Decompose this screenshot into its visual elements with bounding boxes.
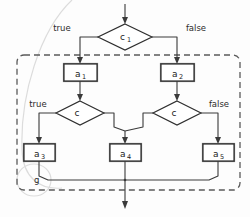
edge-a5-to-merge <box>125 161 218 180</box>
flowchart-diagram: c 1 true false a 1 a 2 c c <box>0 0 250 217</box>
action-a2-subscript: 2 <box>179 73 183 81</box>
group-label-g: g <box>34 175 39 185</box>
decision-c1 <box>98 24 152 50</box>
exit-arrow-head <box>122 201 128 209</box>
edge-label-mid-false: false <box>209 99 229 109</box>
flowchart-canvas: c 1 true false a 1 a 2 c c <box>0 0 250 217</box>
action-a5-subscript: 5 <box>220 153 224 161</box>
action-a3-label: a <box>34 149 40 159</box>
edge-a2-to-cright-arrow <box>174 94 180 101</box>
decision-c-left <box>56 101 104 125</box>
decision-c1-label: c <box>120 32 125 42</box>
action-a1-label: a <box>75 69 81 79</box>
edge-cleft-true <box>39 113 56 139</box>
edge-c1-false <box>152 37 177 59</box>
edge-a3-to-merge <box>39 161 125 180</box>
decision-c-right <box>153 101 201 125</box>
action-a1-subscript: 1 <box>82 73 86 81</box>
edge-c1-true <box>80 37 98 59</box>
entry-arrow-head <box>122 17 128 24</box>
action-a2-label: a <box>172 69 178 79</box>
decision-c-left-label: c <box>75 108 80 118</box>
edge-cleft-false <box>104 113 125 131</box>
edge-a1-to-cleft-arrow <box>77 94 83 101</box>
edge-cright-true <box>125 113 153 131</box>
edge-cright-false <box>201 113 218 139</box>
action-a4-label: a <box>120 149 126 159</box>
edge-label-mid-true: true <box>29 99 46 109</box>
decision-c1-subscript: 1 <box>127 36 131 44</box>
action-a4-subscript: 4 <box>127 153 131 161</box>
edge-label-top-false: false <box>186 23 206 33</box>
decision-c-right-label: c <box>172 108 177 118</box>
group-boundary-g <box>17 55 240 190</box>
edge-label-top-true: true <box>53 23 70 33</box>
action-a5-label: a <box>213 149 219 159</box>
action-a3-subscript: 3 <box>41 153 45 161</box>
